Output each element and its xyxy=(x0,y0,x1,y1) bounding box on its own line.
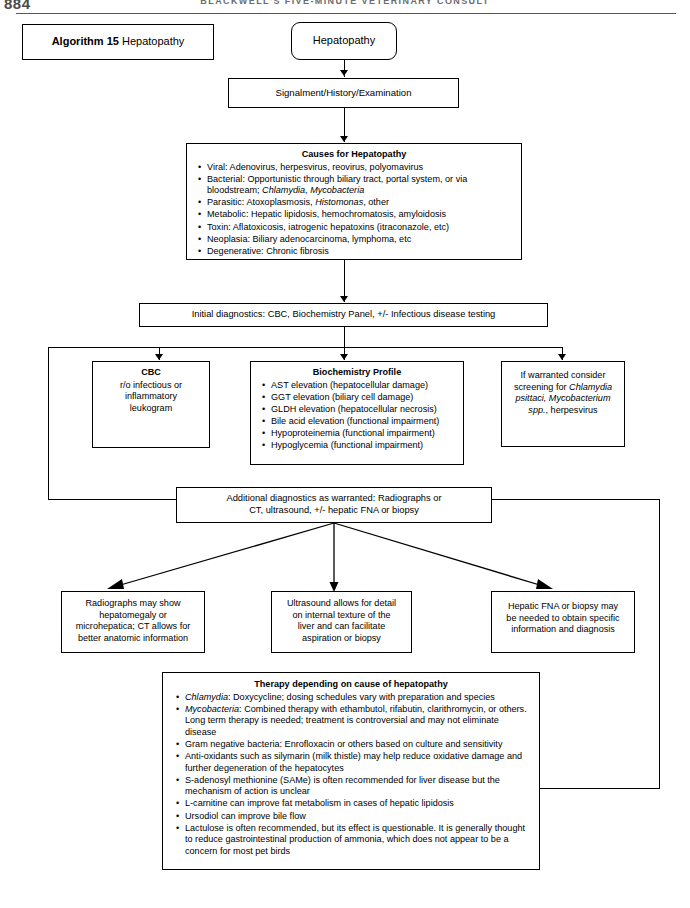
node-radiographs-line: hepatomegaly or xyxy=(69,610,197,622)
node-fna-line: be needed to obtain specific xyxy=(499,613,627,625)
node-radiographs-line: better anatomic information xyxy=(69,633,197,645)
list-item: Ursodiol can improve bile flow xyxy=(185,811,530,823)
fanout-line-left xyxy=(117,523,334,586)
node-fna-line: Hepatic FNA or biopsy may xyxy=(499,601,627,613)
node-therapy-title: Therapy depending on cause of hepatopath… xyxy=(172,679,530,691)
node-radiographs-line: microhepatica; CT allows for xyxy=(69,621,197,633)
list-item: Chlamydia: Doxycycline; dosing schedules… xyxy=(185,692,530,704)
node-therapy-list: Chlamydia: Doxycycline; dosing schedules… xyxy=(172,692,530,858)
list-item: Lactulose is often recommended, but its … xyxy=(185,823,530,858)
node-fna-line: information and diagnosis xyxy=(499,624,627,636)
node-radiographs: Radiographs may show hepatomegaly or mic… xyxy=(61,591,205,653)
node-ultrasound-line: Ultrasound allows for detail xyxy=(279,598,404,610)
node-ultrasound: Ultrasound allows for detail on internal… xyxy=(271,591,412,653)
node-ultrasound-line: liver and can facilitate xyxy=(279,621,404,633)
node-ultrasound-line: on internal texture of the xyxy=(279,610,404,622)
arrowhead-fna xyxy=(536,579,553,589)
list-item: L-carnitine can improve fat metabolism i… xyxy=(185,798,530,810)
node-fna: Hepatic FNA or biopsy may be needed to o… xyxy=(491,591,635,653)
node-radiographs-line: Radiographs may show xyxy=(69,598,197,610)
list-item: S-adenosyl methionine (SAMe) is often re… xyxy=(185,775,530,798)
node-ultrasound-line: aspiration or biopsy xyxy=(279,633,404,645)
node-therapy: Therapy depending on cause of hepatopath… xyxy=(162,672,540,870)
arrowhead-radiographs xyxy=(107,579,124,589)
list-item: Gram negative bacteria: Enrofloxacin or … xyxy=(185,739,530,751)
list-item: Anti-oxidants such as silymarin (milk th… xyxy=(185,751,530,774)
list-item: Mycobacteria: Combined therapy with etha… xyxy=(185,704,530,739)
fanout-line-right xyxy=(334,523,543,586)
